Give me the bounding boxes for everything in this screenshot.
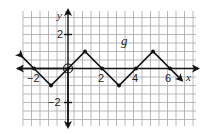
vertex-point — [151, 50, 155, 54]
vertex-point — [32, 67, 36, 71]
x-tick-label-4: 4 — [132, 72, 138, 84]
vertex-point — [83, 50, 87, 54]
x-tick-label-neg2: −2 — [27, 72, 40, 84]
y-axis-label: y — [56, 9, 62, 21]
y-tick-label-2: 2 — [57, 28, 63, 40]
function-graph: −2 2 4 6 2 −2 y x g — [0, 0, 206, 134]
vertex-point — [49, 84, 53, 88]
origin-dot — [66, 67, 70, 71]
x-tick-label-2: 2 — [98, 72, 104, 84]
x-tick-label-6: 6 — [165, 72, 171, 84]
function-label: g — [121, 33, 128, 48]
vertex-point — [168, 67, 172, 71]
vertex-point — [134, 67, 138, 71]
y-tick-label-neg2: −2 — [48, 96, 61, 108]
x-axis-label: x — [185, 71, 191, 83]
vertex-point — [100, 67, 104, 71]
vertex-point — [117, 84, 121, 88]
